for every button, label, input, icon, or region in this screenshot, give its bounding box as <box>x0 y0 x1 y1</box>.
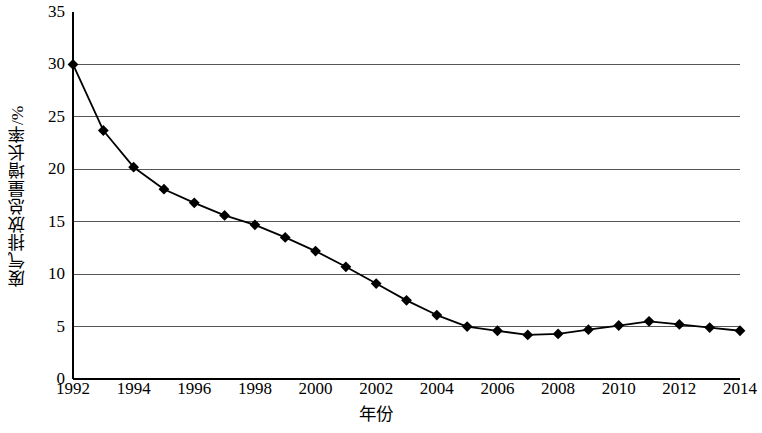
data-point-2011 <box>644 316 655 327</box>
x-tick-label-2014: 2014 <box>712 380 762 397</box>
data-point-1999 <box>280 232 291 243</box>
x-tick-label-2002: 2002 <box>348 380 404 397</box>
axes-group <box>73 12 740 379</box>
data-point-1996 <box>189 197 200 208</box>
y-tick-label-20: 20 <box>29 160 65 177</box>
data-point-2009 <box>583 324 594 335</box>
x-tick-label-2004: 2004 <box>409 380 465 397</box>
x-tick-label-2010: 2010 <box>591 380 647 397</box>
data-point-2005 <box>462 321 473 332</box>
data-point-1997 <box>219 210 230 221</box>
data-point-1992 <box>68 59 79 70</box>
gridlines-group <box>73 12 740 327</box>
data-point-2013 <box>704 322 715 333</box>
x-tick-label-1992: 1992 <box>45 380 101 397</box>
x-tick-label-2012: 2012 <box>651 380 707 397</box>
y-tick-label-30: 30 <box>29 55 65 72</box>
data-point-2002 <box>371 278 382 289</box>
y-tick-label-35: 35 <box>29 3 65 20</box>
x-tick-label-1998: 1998 <box>227 380 283 397</box>
y-tick-label-15: 15 <box>29 213 65 230</box>
data-point-2000 <box>310 246 321 257</box>
x-tick-label-1996: 1996 <box>166 380 222 397</box>
x-tick-label-2008: 2008 <box>530 380 586 397</box>
data-markers-group <box>68 59 746 340</box>
data-point-2012 <box>674 319 685 330</box>
data-point-2008 <box>553 329 564 340</box>
data-point-2001 <box>340 261 351 272</box>
data-point-1998 <box>250 219 261 230</box>
y-tick-label-5: 5 <box>29 318 65 335</box>
data-point-2003 <box>401 295 412 306</box>
x-tick-label-2000: 2000 <box>288 380 344 397</box>
data-point-2010 <box>613 320 624 331</box>
data-point-2007 <box>522 330 533 341</box>
data-line-group <box>73 64 740 335</box>
x-axis-title: 年份 <box>0 400 752 425</box>
y-tick-label-10: 10 <box>29 265 65 282</box>
x-tick-label-2006: 2006 <box>469 380 525 397</box>
data-line <box>73 64 740 335</box>
data-point-2004 <box>431 310 442 321</box>
y-tick-label-25: 25 <box>29 108 65 125</box>
x-tick-label-1994: 1994 <box>106 380 162 397</box>
